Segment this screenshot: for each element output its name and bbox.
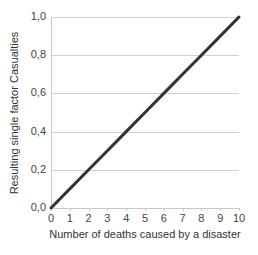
x-tick-label: 10: [229, 212, 249, 224]
x-tick-label: 2: [79, 212, 99, 224]
y-tick-label: 1,0: [16, 10, 46, 22]
x-tick-label: 7: [173, 212, 193, 224]
chart: Resulting single factor Casualties Numbe…: [0, 0, 258, 255]
y-tick-label: 0,2: [16, 163, 46, 175]
x-tick-label: 3: [97, 212, 117, 224]
x-axis-label: Number of deaths caused by a disaster: [49, 228, 240, 240]
y-tick-label: 0,6: [16, 86, 46, 98]
y-tick-label: 0,4: [16, 125, 46, 137]
x-tick-label: 1: [60, 212, 80, 224]
x-tick-label: 9: [210, 212, 230, 224]
x-tick-label: 4: [116, 212, 136, 224]
x-tick-label: 5: [135, 212, 155, 224]
x-tick-label: 8: [191, 212, 211, 224]
y-tick-label: 0,8: [16, 48, 46, 60]
x-tick-label: 0: [41, 212, 61, 224]
data-line: [51, 17, 239, 208]
x-tick-label: 6: [154, 212, 174, 224]
